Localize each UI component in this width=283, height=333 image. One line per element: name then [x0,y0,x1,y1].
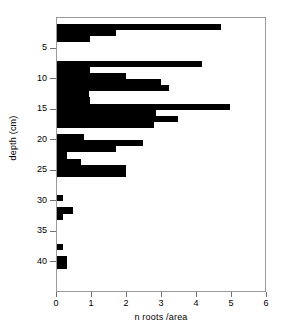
y-tick-label: 5 [7,43,47,52]
x-tick-mark [266,292,267,297]
y-tick-label: 15 [7,104,47,113]
y-tick-label: 35 [7,226,47,235]
y-tick-label: 20 [7,135,47,144]
plot-area [56,17,266,292]
x-tick-label: 4 [186,299,206,308]
bar [57,122,154,128]
bar [57,214,63,220]
y-tick-label: 40 [7,257,47,266]
bar [57,244,63,250]
x-tick-mark [91,292,92,297]
x-tick-label: 3 [151,299,171,308]
x-tick-mark [196,292,197,297]
root-depth-bar-chart: depth (cm) 510152025303540 0123456 n roo… [0,0,283,333]
x-tick-label: 2 [116,299,136,308]
x-tick-label: 6 [256,299,276,308]
x-tick-mark [56,292,57,297]
bar [57,36,90,42]
x-tick-label: 1 [81,299,101,308]
y-tick-label: 10 [7,74,47,83]
bar [57,171,126,177]
x-tick-label: 5 [221,299,241,308]
x-tick-label: 0 [46,299,66,308]
x-tick-mark [161,292,162,297]
x-axis-title: n roots /area [56,312,266,322]
x-tick-mark [126,292,127,297]
bar [57,262,67,268]
x-tick-mark [231,292,232,297]
bar [57,195,63,201]
y-tick-label: 30 [7,196,47,205]
y-tick-label: 25 [7,165,47,174]
